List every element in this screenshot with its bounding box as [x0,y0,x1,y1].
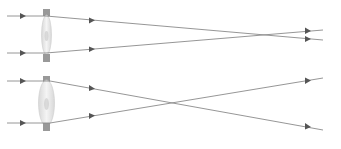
arrow-icon [20,78,26,84]
arrow-icon [305,36,311,42]
bottom-lens-core [44,98,49,110]
arrow-icon [305,78,311,85]
arrow-icon [89,47,95,53]
ray [7,30,323,53]
arrow-icon [20,50,26,56]
arrow-icon [305,28,311,35]
top-lens-core [45,31,49,41]
bottom-lens-diagram [7,76,323,131]
top-lens-diagram [7,9,323,62]
arrow-icon [89,85,95,91]
top-lens-mount-bottom [43,54,50,62]
bottom-lens-mount-bottom [43,123,50,131]
ray [7,16,323,40]
arrow-icon [20,13,26,19]
optics-ray-diagram [0,0,341,149]
arrow-icon [305,123,311,130]
arrow-icon [89,113,95,119]
arrow-icon [20,120,26,126]
arrow-icon [89,18,95,24]
